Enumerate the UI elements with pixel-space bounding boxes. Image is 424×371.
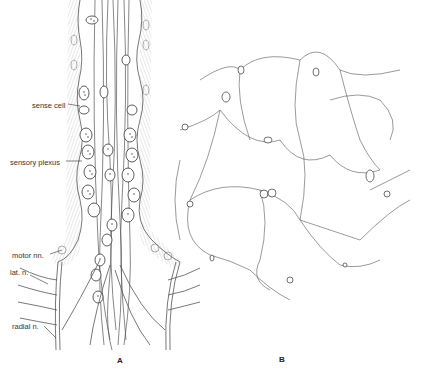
panel-label-a: A: [117, 356, 123, 365]
panel-label-b: B: [279, 355, 285, 364]
scientific-figure: sense cell sensory plexus motor nn. lat.…: [0, 0, 424, 371]
annotation-leader-lines: [0, 0, 424, 371]
